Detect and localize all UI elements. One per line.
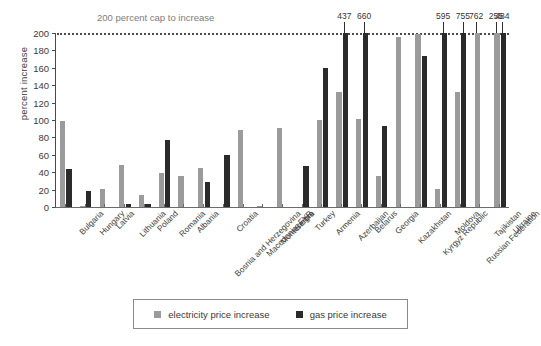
bar-group — [313, 33, 333, 207]
chart-legend: electricity price increase gas price inc… — [133, 299, 408, 329]
bar-elec — [159, 173, 164, 207]
bar-group — [155, 33, 175, 207]
x-tick-mark — [400, 204, 401, 208]
bar-elec — [475, 33, 480, 207]
x-axis-labels: BulgariaHungaryLatviaLithuaniaPolandRoma… — [55, 209, 515, 293]
x-tick-mark — [341, 204, 342, 208]
y-tick-mark — [52, 103, 55, 104]
x-tick-mark — [144, 204, 145, 208]
bars-host — [56, 33, 509, 207]
y-tick-mark — [52, 137, 55, 138]
y-tick-mark — [52, 85, 55, 86]
bar-group — [273, 33, 293, 207]
bar-group — [293, 33, 313, 207]
bar-group — [253, 33, 273, 207]
legend-swatch-electricity-icon — [154, 311, 161, 318]
x-tick-mark — [243, 204, 244, 208]
y-tick-mark — [52, 68, 55, 69]
bar-value-label: 762 — [469, 11, 483, 21]
y-tick-mark — [52, 172, 55, 173]
bar-group — [95, 33, 115, 207]
legend-item-electricity: electricity price increase — [154, 309, 269, 320]
bar-value-label: 437 — [337, 11, 351, 21]
bar-group — [135, 33, 155, 207]
x-tick-mark — [183, 204, 184, 208]
bar-gas — [363, 33, 368, 207]
y-tick-label: 100 — [3, 115, 55, 126]
value-label-leader-line — [364, 22, 365, 33]
y-tick-label: 200 — [3, 28, 55, 39]
bar-elec — [356, 119, 361, 207]
bar-gas — [343, 33, 348, 207]
bar-gas — [126, 204, 131, 207]
bar-value-label: 595 — [436, 11, 450, 21]
value-label-leader-line — [344, 22, 345, 33]
bar-group — [115, 33, 135, 207]
bar-group — [332, 33, 352, 207]
x-tick-mark — [282, 204, 283, 208]
bar-gas — [461, 33, 466, 207]
bar-group — [174, 33, 194, 207]
bar-elec — [277, 128, 282, 207]
bar-group — [194, 33, 214, 207]
legend-label-electricity: electricity price increase — [168, 309, 269, 320]
y-tick-mark — [52, 50, 55, 51]
y-tick-mark — [52, 155, 55, 156]
y-tick-label: 40 — [3, 167, 55, 178]
bar-group — [411, 33, 431, 207]
bar-gas — [382, 126, 387, 207]
x-tick-label: Kazakhstan — [417, 209, 454, 246]
y-tick-mark — [52, 190, 55, 191]
y-tick-label: 0 — [3, 202, 55, 213]
y-tick-label: 60 — [3, 149, 55, 160]
y-tick-mark — [52, 207, 55, 208]
bar-value-label: 484 — [495, 11, 509, 21]
x-tick-mark — [460, 204, 461, 208]
bar-elec — [455, 92, 460, 207]
x-tick-mark — [381, 204, 382, 208]
bar-group — [451, 33, 471, 207]
legend-item-gas: gas price increase — [296, 309, 387, 320]
value-label-leader-line — [476, 22, 477, 33]
x-tick-mark — [262, 204, 263, 208]
bar-group — [431, 33, 451, 207]
y-tick-mark — [52, 120, 55, 121]
bar-group — [490, 33, 510, 207]
bar-gas — [205, 182, 210, 207]
bar-gas — [165, 140, 170, 207]
value-label-leader-line — [443, 22, 444, 33]
bar-group — [372, 33, 392, 207]
y-tick-label: 180 — [3, 45, 55, 56]
bar-value-label: 755 — [456, 11, 470, 21]
x-tick-mark — [479, 204, 480, 208]
cap-line-annotation: 200 percent cap to increase — [97, 12, 214, 23]
bar-gas — [224, 155, 229, 207]
bar-elec — [198, 168, 203, 207]
y-tick-label: 160 — [3, 62, 55, 73]
x-tick-mark — [302, 204, 303, 208]
bar-gas — [422, 56, 427, 207]
bar-gas — [323, 68, 328, 207]
x-tick-mark — [420, 204, 421, 208]
bar-gas — [303, 166, 308, 207]
x-tick-mark — [85, 204, 86, 208]
value-label-leader-line — [502, 22, 503, 33]
y-tick-label: 120 — [3, 97, 55, 108]
bar-group — [76, 33, 96, 207]
y-tick-label: 20 — [3, 184, 55, 195]
value-label-leader-line — [496, 22, 497, 33]
bar-elec — [238, 130, 243, 207]
x-tick-label: Turkey — [313, 209, 337, 233]
x-tick-mark — [104, 204, 105, 208]
bar-gas — [86, 191, 91, 207]
y-tick-label: 80 — [3, 132, 55, 143]
x-tick-mark — [203, 204, 204, 208]
bar-elec — [415, 34, 420, 207]
x-tick-mark — [361, 204, 362, 208]
bar-gas — [66, 169, 71, 207]
x-tick-mark — [440, 204, 441, 208]
x-tick-mark — [499, 204, 500, 208]
bar-group — [352, 33, 372, 207]
bar-elec — [494, 33, 499, 207]
